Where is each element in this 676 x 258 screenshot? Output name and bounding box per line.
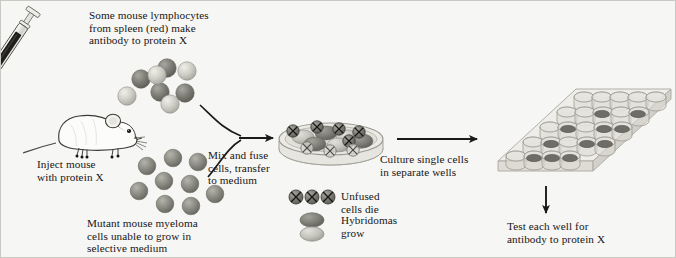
petri-dish xyxy=(279,121,383,165)
lymphocyte-cluster xyxy=(118,59,196,113)
arrow-lymphocytes-to-dish xyxy=(200,105,241,136)
legend-icon-unfused-cells xyxy=(289,190,335,204)
syringe-icon xyxy=(0,6,41,107)
legend-icon-hybridomas xyxy=(300,213,324,241)
label-lymphocytes: Some mouse lymphocytes from spleen (red)… xyxy=(89,9,209,47)
label-test-wells: Test each well for antibody to protein X xyxy=(507,220,605,245)
multiwell-culture-plate xyxy=(498,89,671,171)
laboratory-mouse-icon xyxy=(23,114,147,158)
legend-label-unfused-cells: Unfused cells die xyxy=(341,190,380,215)
label-myeloma: Mutant mouse myeloma cells unable to gro… xyxy=(87,217,198,255)
legend-label-hybridomas: Hybridomas grow xyxy=(341,214,397,239)
figure-canvas: Some mouse lymphocytes from spleen (red)… xyxy=(0,0,676,258)
label-mix-and-fuse: Mix and fuse cells, transfer to medium xyxy=(208,149,270,187)
label-culture-wells: Culture single cells in separate wells xyxy=(380,153,468,178)
label-inject-mouse: Inject mouse with protein X xyxy=(37,158,104,183)
